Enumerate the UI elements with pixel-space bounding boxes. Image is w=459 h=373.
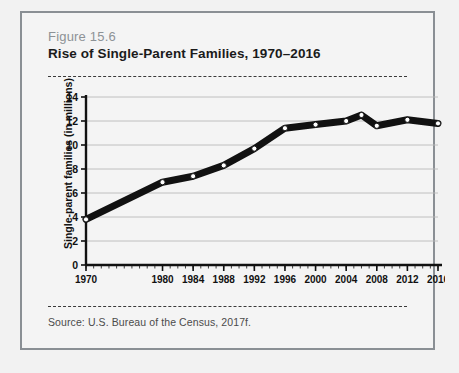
svg-text:1992: 1992 bbox=[243, 274, 266, 285]
dashed-divider-bottom bbox=[48, 306, 407, 307]
data-point-marker bbox=[221, 163, 226, 168]
data-point-marker bbox=[374, 123, 379, 128]
dashed-divider-top bbox=[48, 76, 407, 77]
data-point-marker bbox=[359, 112, 364, 117]
svg-text:2012: 2012 bbox=[396, 274, 419, 285]
data-point-marker bbox=[160, 180, 165, 185]
x-tick-label-group: 1970198019841988199219962000200420082012… bbox=[75, 274, 445, 285]
svg-text:2004: 2004 bbox=[335, 274, 358, 285]
source-note: Source: U.S. Bureau of the Census, 2017f… bbox=[48, 316, 251, 328]
chart-plot-area: Single-parent families (in millions) 024… bbox=[34, 85, 445, 300]
data-point-marker bbox=[405, 117, 410, 122]
figure-card: Figure 15.6 Rise of Single-Parent Famili… bbox=[20, 11, 435, 350]
figure-number-label: Figure 15.6 bbox=[48, 29, 116, 44]
svg-text:1984: 1984 bbox=[182, 274, 205, 285]
data-point-marker bbox=[83, 217, 88, 222]
svg-text:2000: 2000 bbox=[304, 274, 327, 285]
data-point-marker bbox=[313, 122, 318, 127]
svg-text:2016: 2016 bbox=[427, 274, 445, 285]
figure-title: Rise of Single-Parent Families, 1970–201… bbox=[48, 46, 321, 61]
svg-text:2008: 2008 bbox=[366, 274, 389, 285]
data-point-marker bbox=[252, 146, 257, 151]
line-chart: 02468101214 1970198019841988199219962000… bbox=[34, 85, 445, 300]
svg-text:0: 0 bbox=[72, 259, 78, 271]
y-axis-title: Single-parent families (in millions) bbox=[62, 89, 74, 249]
data-series-line bbox=[86, 115, 438, 219]
svg-text:1970: 1970 bbox=[75, 274, 98, 285]
data-point-marker bbox=[191, 174, 196, 179]
svg-text:1988: 1988 bbox=[213, 274, 236, 285]
data-point-marker-group bbox=[83, 112, 440, 222]
svg-text:1980: 1980 bbox=[151, 274, 174, 285]
data-point-marker bbox=[282, 126, 287, 131]
data-point-marker bbox=[344, 118, 349, 123]
svg-text:1996: 1996 bbox=[274, 274, 297, 285]
data-point-marker bbox=[435, 121, 440, 126]
gridline-group bbox=[86, 97, 438, 241]
figure-inner: Figure 15.6 Rise of Single-Parent Famili… bbox=[34, 13, 421, 348]
